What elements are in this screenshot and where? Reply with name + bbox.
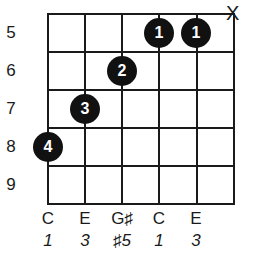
string-line — [121, 13, 123, 204]
fret-line — [47, 203, 235, 205]
fret-line — [47, 51, 235, 53]
fret-number: 9 — [0, 175, 22, 195]
finger-dot: 3 — [70, 94, 100, 124]
interval-label: ♯5 — [107, 231, 137, 251]
fret-line — [47, 127, 235, 129]
fret-number: 6 — [0, 61, 22, 81]
finger-dot: 1 — [144, 18, 174, 48]
interval-label: 1 — [33, 231, 63, 251]
note-label: E — [70, 209, 100, 229]
interval-label: 3 — [70, 231, 100, 251]
fret-line — [47, 13, 235, 15]
string-line — [233, 13, 235, 204]
fret-number: 5 — [0, 23, 22, 43]
note-label: C — [33, 209, 63, 229]
string-line — [47, 13, 49, 204]
note-label: G♯ — [107, 209, 137, 229]
finger-dot: 2 — [107, 56, 137, 86]
finger-dot: 4 — [33, 132, 63, 162]
muted-string-x-icon: X — [226, 3, 239, 23]
fret-line — [47, 89, 235, 91]
note-label: E — [181, 209, 211, 229]
fret-number: 7 — [0, 99, 22, 119]
fret-line — [47, 165, 235, 167]
fret-number: 8 — [0, 137, 22, 157]
note-label: C — [144, 209, 174, 229]
interval-label: 3 — [181, 231, 211, 251]
interval-label: 1 — [144, 231, 174, 251]
finger-dot: 1 — [181, 18, 211, 48]
